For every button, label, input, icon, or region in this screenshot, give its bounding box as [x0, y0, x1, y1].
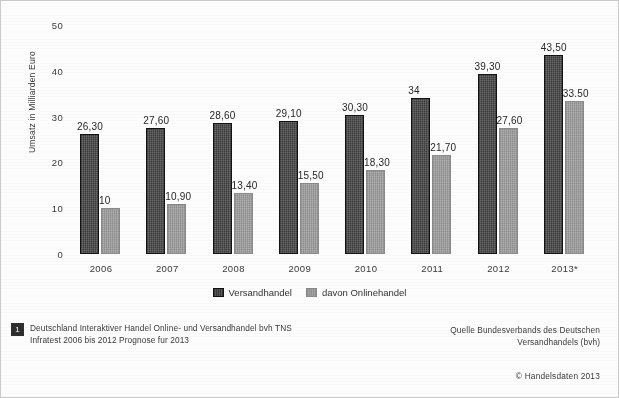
x-tick-2012: 2012 — [476, 263, 522, 274]
bar-2007-series0[interactable] — [146, 128, 165, 254]
bar-2011-series1[interactable] — [432, 155, 451, 254]
bar-2006-series0[interactable] — [80, 134, 99, 254]
bar-group: 3421,70 — [411, 25, 455, 254]
x-tick-2011: 2011 — [409, 263, 455, 274]
bar-value-label: 34 — [408, 85, 420, 96]
source-note: Quelle Bundesverbands des Deutschen Vers… — [370, 324, 600, 349]
bar-value-label: 21,70 — [430, 142, 456, 153]
bar-value-label: 30,30 — [342, 102, 368, 113]
bar-value-label: 13,40 — [232, 180, 258, 191]
y-tick-10: 10 — [52, 203, 63, 214]
bar-value-label: 28,60 — [210, 110, 236, 121]
bar-2012-series0[interactable] — [478, 74, 497, 254]
legend-item-onlinehandel[interactable]: davon Onlinehandel — [306, 287, 407, 298]
bar-value-label: 27,60 — [497, 115, 523, 126]
y-tick-0: 0 — [57, 249, 63, 260]
bar-value-label: 29,10 — [276, 108, 302, 119]
y-tick-50: 50 — [52, 20, 63, 31]
plot-area: 01020304050 26,301027,6010,9028,6013,402… — [71, 25, 601, 254]
x-tick-2008: 2008 — [211, 263, 257, 274]
y-tick-40: 40 — [52, 65, 63, 76]
bar-group: 39,3027,60 — [478, 25, 522, 254]
legend-item-versandhandel[interactable]: Versandhandel — [213, 287, 292, 298]
bar-2008-series0[interactable] — [213, 123, 232, 254]
bar-2012-series1[interactable] — [499, 128, 518, 254]
source-line-2: Versandhandels (bvh) — [370, 336, 600, 348]
y-tick-20: 20 — [52, 157, 63, 168]
y-axis-label: Umsatz in Milliarden Euro — [27, 51, 37, 153]
bar-2009-series0[interactable] — [279, 121, 298, 254]
bar-2013-series0[interactable] — [544, 55, 563, 254]
bar-2011-series0[interactable] — [411, 98, 430, 254]
bar-value-label: 39,30 — [475, 61, 501, 72]
bar-value-label: 18,30 — [364, 157, 390, 168]
bar-2008-series1[interactable] — [234, 193, 253, 254]
copyright-text: © Handelsdaten 2013 — [516, 371, 600, 381]
bar-value-label: 15,50 — [298, 170, 324, 181]
bar-group: 29,1015,50 — [279, 25, 323, 254]
legend-swatch-icon — [306, 288, 317, 297]
x-tick-2013: 2013* — [542, 263, 588, 274]
footnote: 1 Deutschland Interaktiver Handel Online… — [11, 322, 311, 346]
bar-value-label: 33.50 — [563, 88, 589, 99]
x-tick-2007: 2007 — [144, 263, 190, 274]
bar-2006-series1[interactable] — [101, 208, 120, 254]
legend-swatch-icon — [213, 288, 224, 297]
bar-value-label: 43,50 — [541, 42, 567, 53]
bar-group: 43,5033.50 — [544, 25, 588, 254]
source-line-1: Quelle Bundesverbands des Deutschen — [370, 324, 600, 336]
bar-value-label: 10,90 — [165, 191, 191, 202]
legend-label: Versandhandel — [229, 287, 292, 298]
chart-page: Umsatz in Milliarden Euro 01020304050 26… — [0, 0, 619, 398]
x-tick-2009: 2009 — [277, 263, 323, 274]
bar-2013-series1[interactable] — [565, 101, 584, 254]
bar-value-label: 26,30 — [77, 121, 103, 132]
footnote-text: Deutschland Interaktiver Handel Online- … — [30, 322, 311, 346]
y-tick-30: 30 — [52, 111, 63, 122]
bar-2007-series1[interactable] — [167, 204, 186, 254]
bar-2010-series0[interactable] — [345, 115, 364, 254]
bar-group: 28,6013,40 — [213, 25, 257, 254]
chart-legend: Versandhandeldavon Onlinehandel — [1, 287, 618, 298]
x-tick-2010: 2010 — [343, 263, 389, 274]
footnote-marker-icon: 1 — [11, 323, 24, 336]
bar-2010-series1[interactable] — [366, 170, 385, 254]
bar-value-label: 27,60 — [143, 115, 169, 126]
bar-group: 30,3018,30 — [345, 25, 389, 254]
bar-group: 27,6010,90 — [146, 25, 190, 254]
x-tick-2006: 2006 — [78, 263, 124, 274]
legend-label: davon Onlinehandel — [322, 287, 407, 298]
bar-group: 26,3010 — [80, 25, 124, 254]
bar-2009-series1[interactable] — [300, 183, 319, 254]
bar-value-label: 10 — [99, 195, 111, 206]
